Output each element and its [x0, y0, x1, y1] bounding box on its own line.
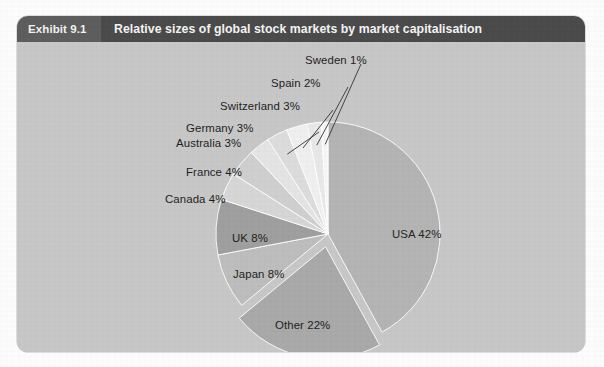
- pie-label-uk: UK 8%: [232, 232, 268, 244]
- pie-label-germany: Germany 3%: [186, 122, 253, 134]
- pie-label-canada: Canada 4%: [165, 193, 225, 205]
- pie-label-sweden: Sweden 1%: [305, 54, 367, 66]
- exhibit-panel: Exhibit 9.1 Relative sizes of global sto…: [17, 16, 585, 352]
- pie-label-france: France 4%: [186, 166, 242, 178]
- pie-label-other: Other 22%: [275, 319, 330, 331]
- exhibit-title: Relative sizes of global stock markets b…: [101, 16, 585, 42]
- exhibit-tag: Exhibit 9.1: [17, 16, 101, 42]
- pie-label-australia: Australia 3%: [176, 137, 241, 149]
- chart-area: Sweden 1% Spain 2% Switzerland 3% German…: [17, 42, 585, 352]
- exhibit-header-bar: Exhibit 9.1 Relative sizes of global sto…: [17, 16, 585, 42]
- pie-label-switzerland: Switzerland 3%: [220, 100, 300, 112]
- exhibit-title-label: Relative sizes of global stock markets b…: [114, 22, 482, 36]
- pie-label-japan: Japan 8%: [233, 268, 284, 280]
- pie-label-spain: Spain 2%: [271, 77, 321, 89]
- pie-label-usa: USA 42%: [392, 228, 441, 240]
- exhibit-tag-label: Exhibit 9.1: [28, 23, 87, 35]
